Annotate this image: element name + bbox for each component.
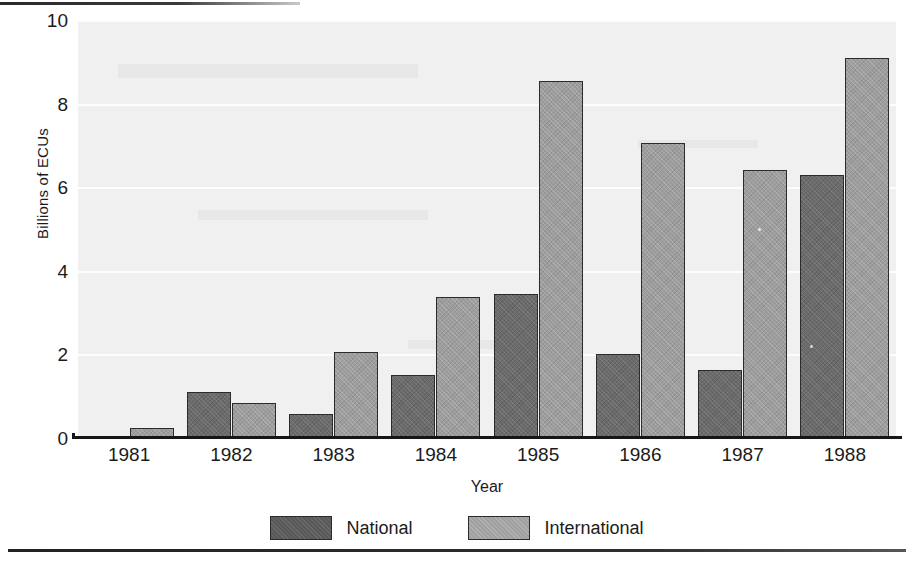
x-tick-label: 1981 (108, 444, 150, 466)
y-axis-tick-labels: 0246810 (18, 0, 68, 564)
bar-international-1986 (641, 143, 685, 438)
bar-international-1988 (845, 58, 889, 438)
legend-swatch-international (468, 516, 530, 540)
bars-layer (78, 20, 896, 438)
bar-international-1984 (436, 297, 480, 438)
x-tick-label: 1988 (824, 444, 866, 466)
bar-national-1983 (289, 414, 333, 438)
x-tick-label: 1986 (619, 444, 661, 466)
bar-international-1982 (232, 403, 276, 438)
y-tick-label: 10 (24, 11, 68, 30)
bar-international-1987 (743, 170, 787, 438)
bar-national-1987 (698, 370, 742, 438)
legend-entry-international[interactable]: International (468, 516, 643, 540)
y-tick-label: 8 (24, 94, 68, 113)
x-axis-tick-labels: 19811982198319841985198619871988 (78, 444, 896, 472)
bar-national-1982 (187, 392, 231, 438)
x-tick-label: 1987 (721, 444, 763, 466)
y-tick-label: 6 (24, 178, 68, 197)
bar-international-1983 (334, 352, 378, 438)
bar-national-1988 (800, 175, 844, 438)
bar-national-1986 (596, 354, 640, 438)
bar-international-1985 (539, 81, 583, 438)
x-tick-label: 1984 (415, 444, 457, 466)
y-tick-label: 4 (24, 261, 68, 280)
bar-chart-figure: Billions of ECUs 0246810 198119821983198… (0, 0, 914, 564)
x-tick-label: 1983 (312, 444, 354, 466)
page-rule-bottom (8, 549, 906, 552)
x-axis-line (72, 436, 902, 439)
legend-swatch-national (270, 516, 332, 540)
x-tick-label: 1985 (517, 444, 559, 466)
legend-label: National (346, 518, 412, 539)
x-tick-label: 1982 (210, 444, 252, 466)
legend-label: International (544, 518, 643, 539)
y-tick-label: 2 (24, 345, 68, 364)
bar-national-1984 (391, 375, 435, 438)
chart-legend: NationalInternational (0, 516, 914, 540)
bar-national-1985 (494, 294, 538, 438)
y-tick-label: 0 (24, 429, 68, 448)
legend-entry-national[interactable]: National (270, 516, 412, 540)
x-axis-title: Year (78, 478, 896, 496)
x-axis-origin-tick (72, 433, 75, 439)
